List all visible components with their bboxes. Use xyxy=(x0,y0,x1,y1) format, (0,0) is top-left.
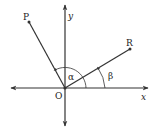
ray-op xyxy=(29,22,65,88)
origin-dot xyxy=(63,86,66,89)
label-r: R xyxy=(126,38,133,48)
ray-or xyxy=(65,49,130,88)
label-origin: O xyxy=(55,91,62,101)
label-y: y xyxy=(67,11,74,21)
label-p: P xyxy=(23,12,29,22)
diagram-canvas: P R y x O α β xyxy=(0,0,151,130)
label-x: x xyxy=(141,92,146,102)
label-beta: β xyxy=(108,71,113,81)
label-alpha: α xyxy=(68,72,74,82)
beta-arc xyxy=(98,68,105,88)
